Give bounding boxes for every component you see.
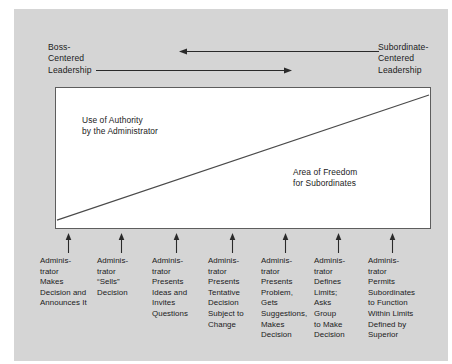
subordinate-centered-leadership-label: Subordinate- Centered Leadership — [378, 42, 428, 76]
diagonal-divider-line — [56, 88, 430, 228]
area-of-freedom-label: Area of Freedom for Subordinates — [293, 167, 357, 189]
column-label-2: Adminis- trator “Sells” Decision — [97, 256, 149, 298]
column-tick-arrow-7 — [388, 233, 397, 253]
authority-freedom-chart: Use of Authority by the Administrator Ar… — [55, 87, 431, 229]
figure-panel: Boss- Centered Leadership Subordinate- C… — [14, 9, 448, 361]
column-tick-arrow-4 — [228, 233, 237, 253]
column-label-3: Adminis- trator Presents Ideas and Invit… — [152, 256, 208, 320]
rightward-arrow-icon — [96, 61, 292, 70]
column-label-7: Adminis- trator Permits Subordinates to … — [368, 256, 440, 341]
leadership-continuum-figure: Boss- Centered Leadership Subordinate- C… — [0, 0, 452, 364]
leftward-arrow-icon — [179, 42, 379, 51]
column-tick-arrow-1 — [64, 233, 73, 253]
column-label-6: Adminis- trator Defines Limits; Asks Gro… — [314, 256, 366, 341]
column-tick-arrow-3 — [172, 233, 181, 253]
boss-centered-leadership-label: Boss- Centered Leadership — [48, 42, 92, 76]
column-label-1: Adminis- trator Makes Decision and Annou… — [40, 256, 98, 309]
column-tick-arrow-2 — [117, 233, 126, 253]
use-of-authority-label: Use of Authority by the Administrator — [82, 115, 158, 137]
column-label-4: Adminis- trator Presents Tentative Decis… — [208, 256, 264, 330]
column-tick-arrow-6 — [334, 233, 343, 253]
column-tick-arrow-5 — [281, 233, 290, 253]
